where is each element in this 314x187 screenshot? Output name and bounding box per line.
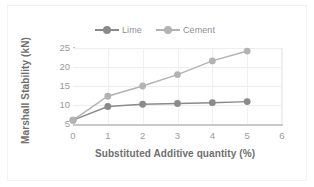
data-point-cement-3 bbox=[174, 71, 181, 78]
series-layer bbox=[73, 48, 282, 124]
data-point-lime-3 bbox=[174, 100, 181, 107]
legend-item-lime: Lime bbox=[95, 25, 142, 35]
x-axis-title: Substituted Additive quantity (%) bbox=[60, 148, 290, 159]
x-tick-label: 0 bbox=[65, 131, 81, 141]
data-point-lime-4 bbox=[209, 99, 216, 106]
legend-item-cement: Cement bbox=[156, 25, 215, 35]
data-point-lime-1 bbox=[104, 103, 111, 110]
x-tick-label: 5 bbox=[239, 131, 255, 141]
x-tick-label: 2 bbox=[135, 131, 151, 141]
chart-container: Lime Cement 510152025 0123456 Substitute… bbox=[0, 0, 314, 187]
data-point-cement-2 bbox=[139, 83, 146, 90]
x-tick-label: 6 bbox=[274, 131, 290, 141]
x-tick-label: 1 bbox=[100, 131, 116, 141]
y-axis-title: Marshall Stability (kN) bbox=[20, 31, 31, 151]
y-tick-label: 10 bbox=[50, 100, 70, 110]
x-tick-label: 3 bbox=[170, 131, 186, 141]
data-point-cement-4 bbox=[209, 58, 216, 65]
data-point-cement-0 bbox=[70, 117, 77, 124]
legend-label-cement: Cement bbox=[183, 25, 215, 35]
y-tick-label: 5 bbox=[50, 119, 70, 129]
x-axis-line bbox=[73, 124, 283, 126]
y-tick-label: 25 bbox=[50, 43, 70, 53]
x-axis-ticks: 0123456 bbox=[0, 131, 314, 143]
legend-swatch-cement bbox=[156, 25, 180, 35]
legend-marker-lime bbox=[103, 26, 111, 34]
y-tick-label: 20 bbox=[50, 62, 70, 72]
data-point-cement-1 bbox=[104, 93, 111, 100]
gridline-vertical bbox=[282, 48, 283, 124]
chart-legend: Lime Cement bbox=[95, 22, 240, 38]
data-point-cement-5 bbox=[244, 48, 251, 55]
y-tick-label: 15 bbox=[50, 81, 70, 91]
plot-area bbox=[73, 48, 282, 124]
data-point-lime-2 bbox=[139, 101, 146, 108]
legend-swatch-lime bbox=[95, 25, 119, 35]
series-line-lime bbox=[73, 102, 247, 121]
legend-marker-cement bbox=[164, 26, 172, 34]
data-point-lime-5 bbox=[244, 98, 251, 105]
x-tick-label: 4 bbox=[204, 131, 220, 141]
legend-label-lime: Lime bbox=[122, 25, 142, 35]
